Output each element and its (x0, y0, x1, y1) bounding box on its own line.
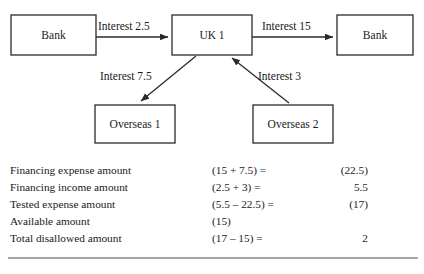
table-cell-calculation: (15) (212, 215, 231, 228)
edge-uk1-to-bank-right: Interest 15 (252, 20, 333, 37)
node-uk-1: UK 1 (172, 15, 252, 55)
table-cell-amount: 2 (362, 232, 368, 244)
calculation-table: Financing expense amount (15 + 7.5) = (2… (8, 164, 418, 258)
table-cell-calculation: (5.5 – 22.5) = (212, 198, 274, 211)
node-bank-right-label: Bank (363, 29, 388, 41)
node-bank-left: Bank (11, 15, 96, 55)
table-cell-description: Financing income amount (10, 181, 129, 193)
edge-uk1-to-overseas1: Interest 7.5 (100, 56, 196, 101)
node-overseas-1-label: Overseas 1 (110, 118, 161, 130)
table-row: Available amount (15) (10, 215, 231, 228)
node-uk-1-label: UK 1 (199, 29, 224, 41)
table-cell-calculation: (2.5 + 3) = (212, 181, 261, 194)
node-overseas-1: Overseas 1 (95, 105, 175, 143)
edge-overseas2-to-uk1: Interest 3 (232, 58, 301, 103)
edge-overseas2-to-uk1-label: Interest 3 (258, 70, 301, 82)
table-row: Financing expense amount (15 + 7.5) = (2… (10, 164, 368, 177)
table-row: Tested expense amount (5.5 – 22.5) = (17… (10, 198, 368, 211)
table-cell-description: Available amount (10, 215, 91, 227)
table-cell-amount: (17) (349, 198, 368, 211)
table-cell-calculation: (15 + 7.5) = (212, 164, 266, 177)
edge-uk1-to-bank-right-label: Interest 15 (262, 20, 311, 32)
table-cell-amount: 5.5 (354, 181, 368, 193)
node-overseas-2: Overseas 2 (253, 105, 333, 143)
node-bank-left-label: Bank (41, 29, 66, 41)
node-bank-right: Bank (337, 15, 413, 55)
table-cell-amount: (22.5) (341, 164, 369, 177)
table-row: Financing income amount (2.5 + 3) = 5.5 (10, 181, 368, 194)
edge-bank-left-to-uk1-label: Interest 2.5 (98, 20, 150, 32)
node-overseas-2-label: Overseas 2 (268, 118, 319, 130)
table-cell-description: Financing expense amount (10, 164, 132, 176)
table-cell-description: Tested expense amount (10, 198, 116, 210)
diagram-nodes: Bank UK 1 Bank Overseas 1 Overseas 2 (11, 15, 413, 143)
table-cell-description: Total disallowed amount (10, 232, 122, 244)
table-row: Total disallowed amount (17 – 15) = 2 (10, 232, 368, 245)
edge-bank-left-to-uk1: Interest 2.5 (96, 20, 168, 37)
table-cell-calculation: (17 – 15) = (212, 232, 263, 245)
edge-uk1-to-overseas1-label: Interest 7.5 (100, 70, 152, 82)
financing-expense-diagram: Bank UK 1 Bank Overseas 1 Overseas 2 Int… (0, 0, 424, 274)
